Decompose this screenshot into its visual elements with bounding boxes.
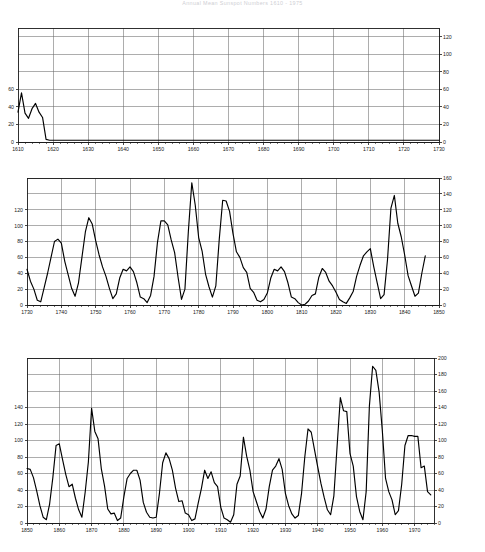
y-tick-label-right: 180 [438,371,447,377]
x-tick-label: 1920 [247,527,259,533]
y-tick-label-left: 0 [20,520,23,526]
y-tick-label-right: 20 [438,503,444,509]
x-tick-label: 1750 [90,309,102,315]
x-tick-label: 1740 [56,309,68,315]
x-tick-label: 1900 [183,527,195,533]
y-tick-label-right: 60 [438,470,444,476]
x-tick-label: 1620 [47,146,59,152]
y-tick-label-right: 200 [438,355,447,361]
x-tick-label: 1830 [365,309,377,315]
x-tick-label: 1760 [124,309,136,315]
y-tick-label-right: 0 [443,139,446,145]
y-tick-label-left: 60 [8,86,14,92]
y-tick-label-right: 60 [443,254,449,260]
y-tick-label-right: 60 [443,86,449,92]
y-tick-label-left: 0 [20,302,23,308]
y-tick-label-left: 80 [17,238,23,244]
y-tick-label-left: 140 [14,404,23,410]
sunspot-chart-page: Annual Mean Sunspot Numbers 1610 - 1975 … [0,0,485,552]
y-tick-label-right: 20 [443,121,449,127]
x-tick-label: 1940 [312,527,324,533]
x-tick-label: 1720 [398,146,410,152]
x-tick-label: 1730 [21,309,33,315]
grid-group [27,358,434,523]
y-tick-label-right: 160 [438,388,447,394]
chart-panel-3: 1850186018701880189019001910192019301940… [0,348,485,543]
y-tick-label-right: 100 [443,51,452,57]
chart-panel-2-svg: 1730174017501760177017801790180018101820… [0,168,485,323]
y-tick-label-right: 120 [443,207,452,213]
chart-panel-1-svg: 1610162016301640165016601670168016901700… [0,14,485,162]
y-tick-label-left: 120 [14,207,23,213]
y-tick-label-left: 100 [14,223,23,229]
x-tick-label: 1770 [159,309,171,315]
chart-panel-2: 1730174017501760177017801790180018101820… [0,168,485,323]
y-tick-label-right: 20 [443,286,449,292]
y-tick-label-left: 40 [8,104,14,110]
y-tick-label-right: 120 [443,34,452,40]
x-tick-label: 1700 [328,146,340,152]
x-tick-label: 1890 [150,527,162,533]
x-tick-label: 1840 [399,309,411,315]
y-tick-label-left: 60 [17,470,23,476]
y-tick-label-left: 120 [14,421,23,427]
y-tick-label-right: 100 [438,437,447,443]
page-title: Annual Mean Sunspot Numbers 1610 - 1975 [0,0,485,6]
y-tick-label-right: 120 [438,421,447,427]
y-tick-label-right: 40 [443,270,449,276]
x-tick-label: 1820 [330,309,342,315]
y-tick-label-left: 20 [8,121,14,127]
y-tick-label-left: 40 [17,270,23,276]
x-tick-label: 1630 [82,146,94,152]
y-tick-label-right: 80 [443,238,449,244]
y-tick-label-right: 0 [438,520,441,526]
x-tick-label: 1710 [363,146,375,152]
y-tick-label-right: 160 [443,175,452,181]
x-tick-label: 1850 [21,527,33,533]
x-tick-label: 1910 [215,527,227,533]
x-tick-label: 1970 [409,527,421,533]
x-tick-label: 1790 [227,309,239,315]
x-tick-label: 1800 [262,309,274,315]
y-tick-label-right: 80 [443,69,449,75]
x-tick-label: 1880 [118,527,130,533]
x-tick-label: 1960 [377,527,389,533]
y-tick-label-left: 40 [17,487,23,493]
x-tick-label: 1950 [344,527,356,533]
x-tick-label: 1780 [193,309,205,315]
x-tick-label: 1690 [293,146,305,152]
tick-group [25,358,437,526]
x-tick-label: 1860 [54,527,66,533]
x-tick-label: 1640 [117,146,129,152]
x-tick-label: 1730 [433,146,445,152]
x-tick-label: 1810 [296,309,308,315]
x-tick-label: 1850 [433,309,445,315]
y-tick-label-right: 140 [438,404,447,410]
y-tick-label-right: 140 [443,191,452,197]
sunspot-series-line [27,183,425,305]
label-group: 1610162016301640165016601670168016901700… [8,34,452,153]
grid-group [18,28,439,142]
y-tick-label-left: 80 [17,454,23,460]
y-tick-label-left: 100 [14,437,23,443]
x-tick-label: 1930 [280,527,292,533]
y-tick-label-right: 0 [443,302,446,308]
y-tick-label-right: 100 [443,223,452,229]
chart-panel-3-svg: 1850186018701880189019001910192019301940… [0,348,485,543]
grid-group [27,178,439,305]
x-tick-label: 1650 [153,146,165,152]
x-tick-label: 1610 [12,146,24,152]
x-tick-label: 1680 [258,146,270,152]
y-tick-label-left: 20 [17,503,23,509]
sunspot-series-line [27,366,431,522]
y-tick-label-left: 20 [17,286,23,292]
x-tick-label: 1870 [86,527,98,533]
y-tick-label-right: 40 [438,487,444,493]
y-tick-label-right: 80 [438,454,444,460]
x-tick-label: 1670 [223,146,235,152]
y-tick-label-left: 60 [17,254,23,260]
y-tick-label-right: 40 [443,104,449,110]
chart-panel-1: 1610162016301640165016601670168016901700… [0,14,485,162]
y-tick-label-left: 0 [11,139,14,145]
x-tick-label: 1660 [188,146,200,152]
